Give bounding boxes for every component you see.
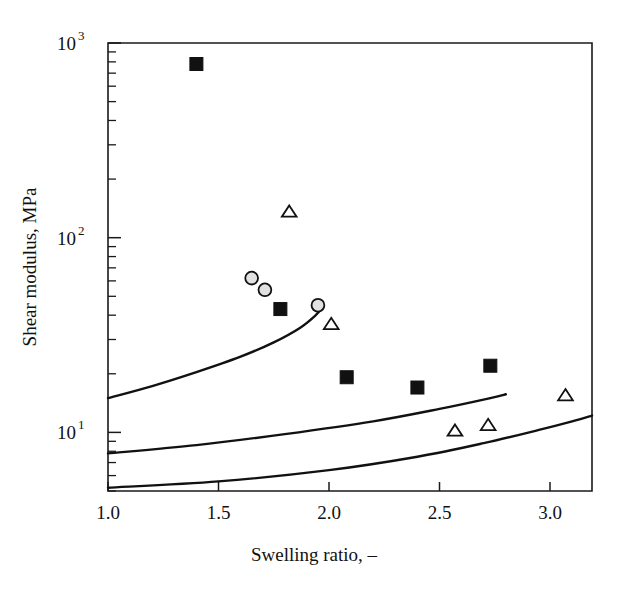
y-axis-tick-labels: 101102103 xyxy=(57,28,85,443)
marker-open-circle xyxy=(259,283,272,296)
x-tick-label: 1.0 xyxy=(96,502,120,523)
y-tick-label-exponent: 3 xyxy=(78,28,85,43)
y-tick-label-mantissa: 10 xyxy=(57,33,76,54)
data-markers xyxy=(190,58,573,436)
y-tick-label-group: 103 xyxy=(57,28,85,54)
marker-filled-square xyxy=(340,371,353,384)
upper-model-curve xyxy=(108,307,322,398)
y-axis-title: Shear modulus, MPa xyxy=(19,187,40,346)
x-axis-tick-labels: 1.01.52.02.53.0 xyxy=(96,502,562,523)
marker-open-circle xyxy=(245,272,258,285)
marker-open-triangle xyxy=(324,318,339,329)
figure-container: 1.01.52.02.53.0 101102103 Swelling ratio… xyxy=(0,0,630,589)
y-tick-label-group: 102 xyxy=(57,223,85,249)
x-axis-title: Swelling ratio, – xyxy=(251,544,378,565)
x-tick-label: 2.0 xyxy=(317,502,341,523)
marker-open-circle xyxy=(312,299,325,312)
x-tick-label: 2.5 xyxy=(428,502,452,523)
model-curves xyxy=(108,307,592,488)
marker-open-triangle xyxy=(558,389,573,400)
marker-open-triangle xyxy=(282,205,297,216)
y-tick-label-exponent: 2 xyxy=(78,223,85,238)
x-tick-label: 3.0 xyxy=(538,502,562,523)
marker-filled-square xyxy=(411,381,424,394)
marker-open-triangle xyxy=(481,419,496,430)
marker-filled-square xyxy=(484,359,497,372)
marker-filled-square xyxy=(190,58,203,71)
x-tick-label: 1.5 xyxy=(207,502,231,523)
chart-canvas: 1.01.52.02.53.0 101102103 Swelling ratio… xyxy=(0,0,630,589)
y-tick-label-mantissa: 10 xyxy=(57,228,76,249)
y-tick-label-group: 101 xyxy=(57,417,85,443)
marker-filled-square xyxy=(274,303,287,316)
middle-model-curve xyxy=(108,394,506,453)
y-tick-label-exponent: 1 xyxy=(78,417,85,432)
y-axis-ticks xyxy=(108,43,121,491)
y-tick-label-mantissa: 10 xyxy=(57,422,76,443)
marker-open-triangle xyxy=(448,424,463,435)
lower-model-curve xyxy=(108,416,592,488)
